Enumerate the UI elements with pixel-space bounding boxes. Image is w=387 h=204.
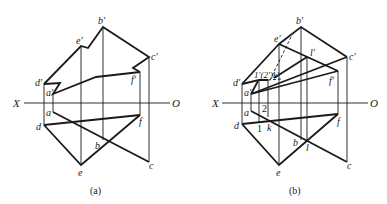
label-a-prime-b: a′ (244, 87, 252, 98)
top-line-def-a (44, 115, 140, 165)
label-o-a: O (172, 97, 180, 109)
label-e-a: e (78, 167, 83, 178)
label-d-prime-b: d′ (233, 77, 241, 88)
label-b-a: b (95, 140, 100, 151)
caption-a: (a) (90, 185, 101, 197)
panel-a: b′ e′ c′ d′ a′ f′ a d f b e c X O (a) (12, 15, 180, 197)
label-f-a: f (139, 116, 143, 127)
label-d-prime-a: d′ (35, 77, 43, 88)
front-outline-inner-a (44, 72, 140, 94)
label-d-b: d (234, 120, 240, 131)
label-e-prime-a: e′ (76, 35, 83, 46)
label-e-prime-b: e′ (274, 33, 281, 44)
label-x-b: X (211, 97, 220, 109)
label-a-a: a (46, 107, 51, 118)
label-1-b: 1 (257, 123, 262, 134)
label-b-prime-a: b′ (98, 15, 106, 26)
label-l-b: l (306, 142, 309, 153)
caption-b: (b) (289, 185, 301, 197)
label-b-b: b (293, 137, 298, 148)
panel-b: b′ e′ c′ l′ 1′(2′)k′ d′ a′ f′ 2 a d 1 k … (211, 15, 378, 197)
label-o-b: O (370, 97, 378, 109)
label-b-prime-b: b′ (296, 15, 304, 26)
label-x-a: X (12, 97, 21, 109)
projection-diagram: b′ e′ c′ d′ a′ f′ a d f b e c X O (a) (0, 0, 387, 204)
label-a-b: a (244, 107, 249, 118)
label-a-prime-a: a′ (46, 87, 54, 98)
label-d-a: d (36, 121, 42, 132)
label-k-b: k (267, 122, 272, 133)
label-l-prime-b: l′ (310, 47, 316, 58)
label-e-b: e (276, 167, 281, 178)
label-2-b: 2 (262, 103, 267, 114)
label-f-b: f (337, 116, 341, 127)
label-c-b: c (347, 160, 352, 171)
label-c-prime-a: c′ (151, 51, 158, 62)
top-line-df-a (44, 115, 140, 125)
label-c-a: c (149, 160, 154, 171)
label-f-prime-b: f′ (329, 75, 335, 86)
label-1-2-k-prime-b: 1′(2′)k′ (254, 70, 280, 80)
label-c-prime-b: c′ (349, 51, 356, 62)
label-f-prime-a: f′ (131, 74, 137, 85)
